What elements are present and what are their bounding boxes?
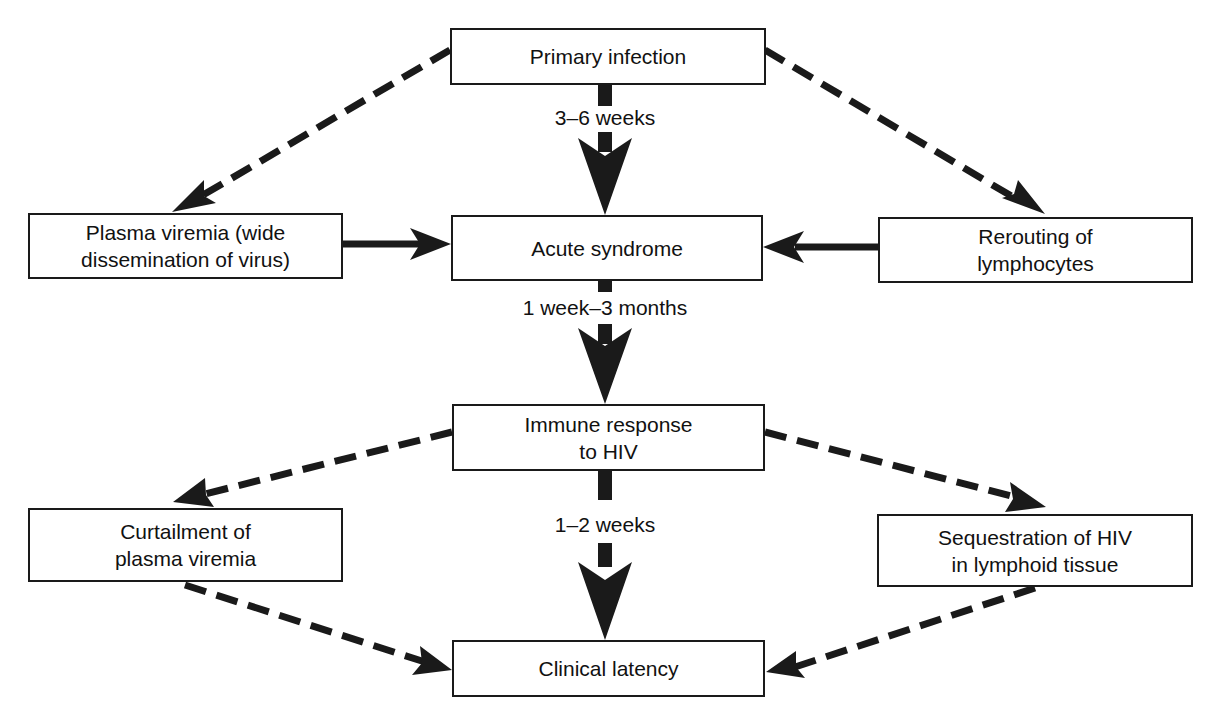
node-primary-infection: Primary infection [450, 28, 766, 85]
dashed-arrow-immune-to-curtailment [173, 432, 452, 507]
arrow-viremia-to-acute [342, 228, 451, 260]
arrow-primary-to-acute [578, 84, 632, 215]
edge-label-3-6-weeks: 3–6 weeks [553, 106, 657, 130]
node-plasma-viremia: Plasma viremia (wide dissemination of vi… [28, 213, 343, 279]
node-acute-syndrome: Acute syndrome [451, 215, 763, 281]
dashed-arrow-primary-to-viremia [172, 50, 450, 212]
node-clinical-latency: Clinical latency [452, 640, 765, 697]
node-immune-response: Immune response to HIV [452, 404, 765, 471]
edge-label-1-2-weeks: 1–2 weeks [553, 513, 657, 537]
dashed-arrow-immune-to-sequestration [765, 432, 1046, 512]
dashed-arrow-sequestration-to-latency [766, 588, 1035, 678]
node-rerouting-of-lymphocytes: Rerouting of lymphocytes [878, 217, 1193, 283]
dashed-arrow-curtailment-to-latency [185, 585, 452, 675]
arrow-rerouting-to-acute [763, 231, 878, 263]
dashed-arrow-primary-to-rerouting [765, 50, 1045, 214]
node-sequestration-of-hiv: Sequestration of HIV in lymphoid tissue [877, 514, 1193, 587]
arrow-immune-to-latency [578, 470, 632, 640]
node-curtailment-of-plasma-viremia: Curtailment of plasma viremia [28, 508, 343, 582]
edge-label-1-week-3-months: 1 week–3 months [521, 296, 690, 320]
